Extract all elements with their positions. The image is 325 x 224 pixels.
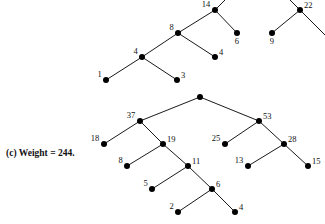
tree-edge [188, 166, 212, 189]
tree-node-2 [175, 209, 181, 215]
figure-binary-trees: 1468441322937531819252881113155624 (c) W… [0, 0, 325, 224]
tree-node-label: 19 [167, 135, 176, 144]
tree-node-8 [124, 163, 130, 169]
tree-edge [140, 97, 200, 121]
tree-edge [152, 166, 188, 189]
tree-node-8 [175, 30, 181, 36]
tree-node-label: 4 [219, 48, 223, 57]
tree-node-37 [137, 118, 143, 124]
tree-node-4 [232, 209, 238, 215]
tree-node-label: 25 [212, 134, 221, 143]
tree-edge [248, 144, 284, 166]
tree-node-label: 5 [143, 179, 147, 188]
tree-node-label: 6 [216, 180, 220, 189]
tree-node-label: 9 [270, 37, 274, 46]
tree-edge [215, 10, 237, 33]
tree-node-label: 53 [263, 112, 272, 121]
tree-node-label: 8 [118, 156, 122, 165]
tree-edge [142, 33, 178, 57]
tree-edge [178, 10, 215, 33]
tree-node-label: 18 [91, 134, 100, 143]
tree-node-14 [212, 7, 218, 13]
tree-edges-layer [0, 0, 325, 224]
tree-node-label: 28 [288, 135, 297, 144]
tree-edge [106, 57, 142, 80]
tree-node-unlabeled [197, 94, 203, 100]
tree-node-53 [256, 118, 262, 124]
tree-node-25 [222, 141, 228, 147]
tree-node-label: 15 [312, 157, 321, 166]
tree-node-22 [297, 7, 303, 13]
tree-node-label: 13 [235, 156, 244, 165]
tree-node-11 [185, 163, 191, 169]
tree-node-13 [245, 163, 251, 169]
tree-node-19 [160, 141, 166, 147]
tree-node-label: 3 [181, 71, 185, 80]
tree-node-label: 8 [169, 23, 173, 32]
tree-edge-open [300, 10, 325, 35]
tree-node-6 [209, 186, 215, 192]
tree-node-label: 4 [133, 47, 137, 56]
tree-edge [178, 189, 212, 212]
tree-node-15 [305, 163, 311, 169]
tree-edge-open [215, 0, 238, 10]
tree-node-label: 22 [304, 1, 313, 10]
tree-edge [259, 121, 284, 144]
tree-node-label: 6 [235, 37, 239, 46]
figure-caption: (c) Weight = 244. [6, 148, 75, 158]
tree-node-label: 4 [239, 203, 243, 212]
tree-node-label: 1 [97, 70, 101, 79]
tree-edge [225, 121, 259, 144]
tree-edge [163, 144, 188, 166]
tree-node-4 [212, 54, 218, 60]
tree-node-label: 37 [127, 111, 136, 120]
tree-edge [140, 121, 163, 144]
tree-edge [142, 57, 177, 80]
tree-edge [104, 121, 140, 144]
tree-edge [178, 33, 215, 57]
tree-node-28 [281, 141, 287, 147]
tree-edge [272, 10, 300, 33]
tree-edge [212, 189, 235, 212]
tree-node-label: 2 [169, 202, 173, 211]
tree-node-label: 14 [202, 0, 211, 9]
tree-node-5 [149, 186, 155, 192]
tree-node-3 [174, 77, 180, 83]
tree-node-label: 11 [192, 157, 200, 166]
tree-node-4 [139, 54, 145, 60]
tree-edge [284, 144, 308, 166]
tree-edge [127, 144, 163, 166]
tree-edge [200, 97, 259, 121]
tree-node-1 [103, 77, 109, 83]
tree-node-18 [101, 141, 107, 147]
